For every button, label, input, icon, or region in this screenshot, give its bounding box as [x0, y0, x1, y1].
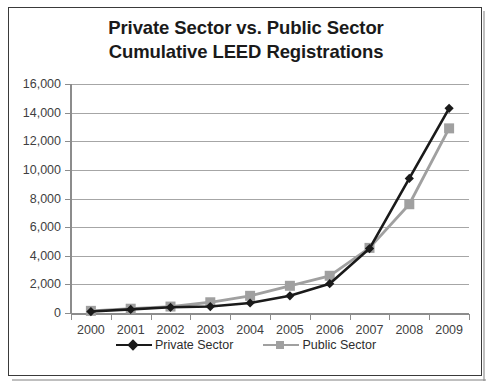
x-axis-label: 2008 — [395, 323, 423, 337]
x-axis-tick — [429, 314, 430, 320]
legend-swatch-private-sector — [116, 339, 152, 351]
x-axis-tick — [310, 314, 311, 320]
diamond-marker-icon — [285, 291, 294, 300]
y-axis-label: 14,000 — [9, 106, 61, 120]
x-axis-tick — [190, 314, 191, 320]
chart-frame-shadow-right — [483, 11, 485, 381]
y-axis-label: 12,000 — [9, 134, 61, 148]
legend-label-private-sector: Private Sector — [155, 338, 234, 352]
legend-item-public-sector: Public Sector — [263, 338, 376, 352]
x-axis-tick — [111, 314, 112, 320]
diamond-marker-icon — [127, 339, 138, 350]
y-axis-label: 0 — [9, 306, 61, 320]
x-axis-label: 2002 — [157, 323, 185, 337]
square-marker-icon — [285, 281, 295, 291]
y-axis-label: 4,000 — [9, 249, 61, 263]
y-axis-tick — [65, 84, 71, 85]
x-axis-label: 2001 — [117, 323, 145, 337]
x-axis-tick — [389, 314, 390, 320]
x-axis-tick — [71, 314, 72, 320]
plot-wrapper: 02,0004,0006,0008,00010,00012,00014,0001… — [9, 8, 483, 377]
y-axis-tick — [65, 256, 71, 257]
x-axis-tick — [270, 314, 271, 320]
square-marker-icon — [404, 199, 414, 209]
x-axis-label: 2009 — [435, 323, 463, 337]
series-layer — [9, 8, 483, 377]
chart-container: Private Sector vs. Public Sector Cumulat… — [8, 7, 482, 376]
x-axis-tick — [230, 314, 231, 320]
x-axis-label: 2000 — [77, 323, 105, 337]
series-line-public-sector — [91, 128, 449, 310]
y-axis-tick — [65, 113, 71, 114]
chart-frame-shadow-bottom — [12, 379, 486, 381]
y-axis-label: 2,000 — [9, 277, 61, 291]
square-marker-icon — [276, 341, 284, 349]
series-line-private-sector — [91, 108, 449, 311]
x-axis-tick — [350, 314, 351, 320]
chart-legend: Private Sector Public Sector — [9, 338, 483, 352]
y-axis-tick — [65, 227, 71, 228]
y-axis-tick — [65, 199, 71, 200]
x-axis-label: 2007 — [356, 323, 384, 337]
legend-label-public-sector: Public Sector — [302, 338, 376, 352]
y-axis-label: 6,000 — [9, 220, 61, 234]
x-axis-label: 2004 — [236, 323, 264, 337]
x-axis-label: 2006 — [316, 323, 344, 337]
y-axis-label: 16,000 — [9, 77, 61, 91]
y-axis-label: 8,000 — [9, 192, 61, 206]
square-marker-icon — [444, 123, 454, 133]
x-axis-label: 2003 — [196, 323, 224, 337]
legend-item-private-sector: Private Sector — [116, 338, 234, 352]
x-axis-label: 2005 — [276, 323, 304, 337]
x-axis-tick — [151, 314, 152, 320]
y-axis-tick — [65, 284, 71, 285]
y-axis-tick — [65, 141, 71, 142]
legend-swatch-public-sector — [263, 339, 299, 351]
y-axis-tick — [65, 170, 71, 171]
x-axis-tick — [469, 314, 470, 320]
y-axis-label: 10,000 — [9, 163, 61, 177]
